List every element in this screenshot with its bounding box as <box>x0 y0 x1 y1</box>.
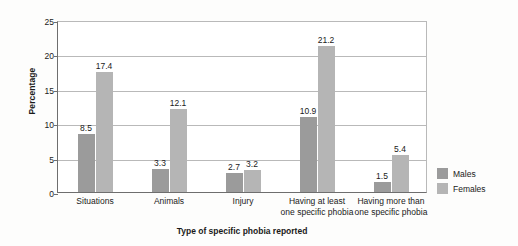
legend-swatch-males <box>437 168 448 179</box>
y-axis-tick-label: 10 <box>45 120 54 130</box>
bar-value-label: 3.2 <box>246 159 258 169</box>
x-axis-tick-label: Having more thanone specific phobia <box>345 196 437 217</box>
plot-area: 05101520258.517.4Situations3.312.1Animal… <box>57 21 427 193</box>
bar-value-label: 10.9 <box>300 106 317 116</box>
bar-value-label: 17.4 <box>96 61 113 71</box>
y-axis-tick-mark <box>54 194 58 195</box>
bar-value-label: 5.4 <box>394 144 406 154</box>
bar-males-2: 2.7 <box>226 173 243 192</box>
bar-group: 2.73.2Injury <box>206 22 280 192</box>
bar-males-4: 1.5 <box>374 182 391 192</box>
bar-females-4: 5.4 <box>392 155 409 192</box>
y-axis-tick-label: 25 <box>45 17 54 27</box>
bar-males-3: 10.9 <box>300 117 317 192</box>
y-axis-tick-label: 15 <box>45 86 54 96</box>
bar-females-3: 21.2 <box>318 46 335 192</box>
x-axis-title: Type of specific phobia reported <box>57 226 427 236</box>
bar-value-label: 8.5 <box>80 123 92 133</box>
legend-label: Females <box>453 184 486 194</box>
legend-label: Males <box>453 169 476 179</box>
bar-value-label: 3.3 <box>154 158 166 168</box>
bar-value-label: 2.7 <box>228 162 240 172</box>
bar-group: 3.312.1Animals <box>132 22 206 192</box>
legend-item: Females <box>437 181 486 196</box>
y-axis-title: Percentage <box>27 31 37 151</box>
bar-value-label: 21.2 <box>318 35 335 45</box>
bar-group: 1.55.4Having more thanone specific phobi… <box>354 22 428 192</box>
bar-females-2: 3.2 <box>244 170 261 192</box>
bar-females-1: 12.1 <box>170 109 187 192</box>
bar-chart-figure: Percentage 05101520258.517.4Situations3.… <box>0 0 518 246</box>
bar-value-label: 1.5 <box>376 171 388 181</box>
legend-swatch-females <box>437 183 448 194</box>
y-axis-tick-label: 20 <box>45 51 54 61</box>
bar-males-1: 3.3 <box>152 169 169 192</box>
bar-group: 8.517.4Situations <box>58 22 132 192</box>
chart-legend: MalesFemales <box>437 166 486 196</box>
bar-females-0: 17.4 <box>96 72 113 192</box>
bar-males-0: 8.5 <box>78 134 95 192</box>
bar-group: 10.921.2Having at leastone specific phob… <box>280 22 354 192</box>
bar-value-label: 12.1 <box>170 98 187 108</box>
legend-item: Males <box>437 166 486 181</box>
